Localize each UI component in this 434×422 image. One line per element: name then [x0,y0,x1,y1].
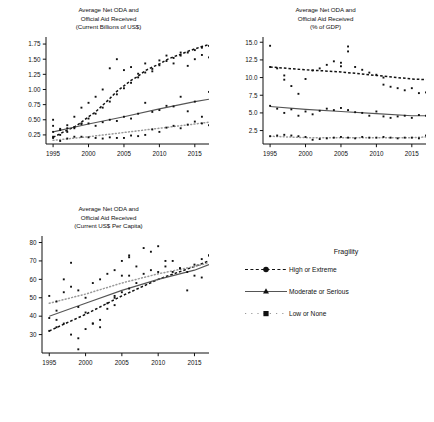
legend-item-low-or-none[interactable]: Low or None [243,308,423,319]
legend: Fragility High or Extreme Mod [243,248,423,330]
svg-text:30: 30 [29,331,37,338]
legend-item-high-or-extreme[interactable]: High or Extreme [243,264,423,275]
svg-text:1995: 1995 [263,149,278,156]
plot-area-billions: 0.250.500.751.001.251.501.75199520002005… [0,32,217,187]
svg-text:0.75: 0.75 [28,101,41,108]
plot-area-pct-gdp: 2.55.07.510.012.515.01995200020052010201… [217,32,434,187]
svg-text:0.25: 0.25 [28,131,41,138]
panel-title-per-capita: Average Net ODA and Official Aid Receive… [0,196,217,231]
svg-text:1.00: 1.00 [28,86,41,93]
chart-svg-billions: 0.250.500.751.001.251.501.75199520002005… [0,32,217,187]
svg-text:2005: 2005 [115,358,130,365]
svg-text:15.0: 15.0 [245,38,258,45]
panel-net-oda-pct-gdp: Average Net ODA and Official Aid Receive… [217,0,434,195]
svg-text:70: 70 [29,257,37,264]
panel-title-pct-gdp: Average Net ODA and Official Aid Receive… [217,0,434,32]
svg-text:7.5: 7.5 [249,91,258,98]
svg-text:2015: 2015 [188,149,203,156]
svg-text:2015: 2015 [405,149,420,156]
legend-title: Fragility [269,248,423,255]
panel-net-oda-per-capita: Average Net ODA and Official Aid Receive… [0,196,217,422]
svg-text:40: 40 [29,312,37,319]
svg-text:12.5: 12.5 [245,56,258,63]
legend-key-square-dotted-icon [243,308,289,319]
panel-title-billions: Average Net ODA and Official Aid Receive… [0,0,217,32]
legend-label-low-or-none: Low or None [289,310,326,317]
svg-text:2000: 2000 [79,358,94,365]
svg-text:60: 60 [29,275,37,282]
svg-text:2000: 2000 [299,149,314,156]
svg-text:1.75: 1.75 [28,40,41,47]
svg-text:1995: 1995 [42,358,57,365]
panel-legend: Fragility High or Extreme Mod [217,196,434,422]
legend-item-moderate-or-serious[interactable]: Moderate or Serious [243,286,423,297]
legend-key-triangle-solid-icon [243,286,289,297]
svg-text:2000: 2000 [82,149,97,156]
svg-text:1995: 1995 [46,149,61,156]
chart-svg-per-capita: 30405060708019952000200520102015 [0,231,217,386]
svg-text:2005: 2005 [334,149,349,156]
svg-text:1.25: 1.25 [28,70,41,77]
svg-text:2010: 2010 [152,149,167,156]
svg-text:2005: 2005 [117,149,132,156]
figure-grid: Average Net ODA and Official Aid Receive… [0,0,434,422]
svg-text:10.0: 10.0 [245,74,258,81]
legend-key-circle-dashed-icon [243,264,289,275]
svg-text:1.50: 1.50 [28,55,41,62]
legend-label-moderate-or-serious: Moderate or Serious [289,288,349,295]
svg-text:2010: 2010 [369,149,384,156]
svg-text:80: 80 [29,239,37,246]
panel-net-oda-billions: Average Net ODA and Official Aid Receive… [0,0,217,195]
chart-svg-pct-gdp: 2.55.07.510.012.515.01995200020052010201… [217,32,434,187]
svg-text:2010: 2010 [151,358,166,365]
svg-text:2015: 2015 [187,358,202,365]
plot-area-per-capita: 30405060708019952000200520102015 [0,231,217,386]
svg-text:50: 50 [29,294,37,301]
svg-text:2.5: 2.5 [249,127,258,134]
svg-text:5.0: 5.0 [249,109,258,116]
svg-text:0.50: 0.50 [28,116,41,123]
legend-label-high-or-extreme: High or Extreme [289,266,337,273]
